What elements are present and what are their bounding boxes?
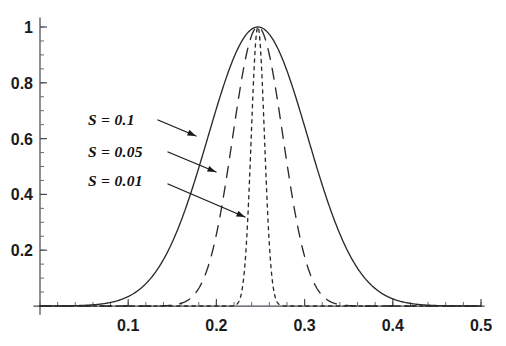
x-tick-label: 0.2 (205, 317, 227, 334)
y-axis-tick-labels: 0.20.40.60.81 (11, 19, 33, 259)
y-tick-label: 0.4 (11, 186, 33, 203)
y-tick-label: 1 (24, 19, 33, 36)
annot-s-005-arrow-head (207, 166, 216, 172)
annot-s-01: S = 0.1 (88, 111, 135, 128)
x-tick-label: 0.4 (382, 317, 404, 334)
x-axis-tick-labels: 0.10.20.30.40.5 (117, 317, 492, 334)
x-tick-label: 0.1 (117, 317, 139, 334)
curve-dotted (40, 27, 481, 306)
y-tick-label: 0.2 (11, 242, 33, 259)
y-tick-label: 0.6 (11, 131, 33, 148)
curve-solid (40, 27, 481, 306)
data-curves (40, 27, 481, 306)
annot-s-001-arrow-head (236, 211, 245, 217)
plot-canvas: 0.10.20.30.40.5 0.20.40.60.81 S = 0.1S =… (0, 0, 506, 346)
x-tick-label: 0.5 (470, 317, 492, 334)
curve-dashed (40, 27, 481, 306)
annot-s-01-arrow-head (187, 130, 196, 136)
y-tick-label: 0.8 (11, 75, 33, 92)
y-axis-major-ticks (40, 27, 47, 250)
annot-s-001: S = 0.01 (88, 172, 143, 189)
gaussian-curves-figure: 0.10.20.30.40.5 0.20.40.60.81 S = 0.1S =… (0, 0, 506, 346)
annot-s-001-leader-line (168, 184, 245, 217)
annot-s-005: S = 0.05 (88, 143, 143, 160)
x-tick-label: 0.3 (293, 317, 315, 334)
axes (34, 18, 484, 314)
series-annotations: S = 0.1S = 0.05S = 0.01 (88, 111, 245, 217)
